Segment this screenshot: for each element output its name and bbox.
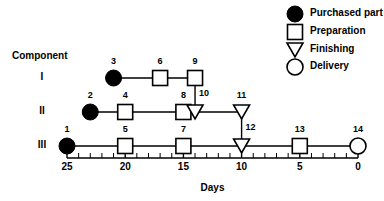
node-label-14: 14	[353, 124, 363, 134]
row-label-III: III	[38, 139, 46, 150]
legend-label-preparation: Preparation	[310, 25, 366, 36]
node-label-12: 12	[246, 122, 256, 132]
legend-symbol-preparation-icon	[288, 25, 303, 40]
node-6-preparation-icon	[153, 71, 168, 86]
legend-label-purchased-part: Purchased part	[310, 7, 383, 18]
node-9-preparation-icon	[188, 71, 203, 86]
node-label-6: 6	[158, 56, 163, 66]
node-5-preparation-icon	[118, 139, 133, 154]
axis-tick-label-25: 25	[61, 161, 72, 172]
axis-tick-label-0: 0	[355, 161, 361, 172]
axis-tick-label-10: 10	[236, 161, 247, 172]
node-label-5: 5	[123, 124, 128, 134]
node-label-4: 4	[123, 90, 128, 100]
edges-layer	[67, 78, 358, 146]
node-label-10: 10	[199, 88, 209, 98]
node-label-8: 8	[181, 90, 186, 100]
node-label-1: 1	[64, 124, 69, 134]
node-3-purchased-part-icon	[106, 70, 122, 86]
node-label-9: 9	[193, 56, 198, 66]
node-4-preparation-icon	[118, 105, 133, 120]
axis-tick-label-15: 15	[178, 161, 189, 172]
axis-tick-label-5: 5	[297, 161, 303, 172]
legend-symbol-purchased-part-icon	[287, 6, 303, 22]
node-label-2: 2	[88, 90, 93, 100]
legend-label-delivery: Delivery	[310, 60, 349, 71]
node-7-preparation-icon	[176, 139, 191, 154]
axis-layer	[67, 150, 358, 158]
node-label-3: 3	[111, 56, 116, 66]
axis-tick-label-20: 20	[120, 161, 131, 172]
axis-title: Days	[201, 182, 225, 193]
node-14-delivery-icon	[350, 138, 366, 154]
node-13-preparation-icon	[292, 139, 307, 154]
node-label-13: 13	[295, 124, 305, 134]
legend-symbol-finishing-icon	[287, 43, 303, 57]
legend-symbol-delivery-icon	[287, 59, 303, 75]
node-label-11: 11	[237, 90, 247, 100]
node-1-purchased-part-icon	[59, 138, 75, 154]
legend-symbols-layer	[287, 6, 303, 75]
legend-label-finishing: Finishing	[310, 43, 354, 54]
node-label-7: 7	[181, 124, 186, 134]
node-2-purchased-part-icon	[82, 104, 98, 120]
component-heading: Component	[12, 50, 68, 61]
row-label-II: II	[39, 105, 45, 116]
row-label-I: I	[41, 71, 44, 82]
